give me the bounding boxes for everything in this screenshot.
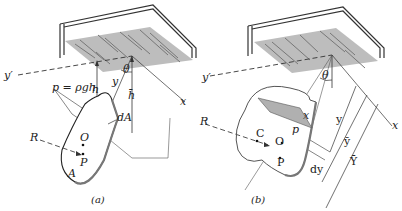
label-y-prime-b: y′ xyxy=(202,72,211,83)
label-y-b: y xyxy=(336,114,342,125)
label-C: C xyxy=(256,128,264,139)
label-R-a: R xyxy=(30,132,38,143)
label-R-b: R xyxy=(200,116,208,127)
label-dA: dA xyxy=(117,112,132,123)
label-h-bar: h̄ xyxy=(128,90,135,101)
hydrostatic-pressure-figure: y′ h y h̄ θ x p = ρgh dA O P R A (a) y′ … xyxy=(0,0,402,211)
panel-a-drawing xyxy=(18,5,196,184)
label-x-a: x xyxy=(180,96,186,107)
label-x-b: x xyxy=(392,120,398,131)
label-x-small: x xyxy=(303,110,309,121)
label-P-b: P xyxy=(277,157,284,168)
label-pressure: p = ρgh xyxy=(52,82,96,93)
label-O-b: O xyxy=(275,136,284,147)
label-y-a: y xyxy=(112,76,118,87)
panel-b-drawing xyxy=(205,7,392,208)
label-Y-bar: Ȳ xyxy=(350,156,357,167)
label-A: A xyxy=(68,168,76,179)
figure-drawing xyxy=(0,0,402,211)
label-P-a: P xyxy=(80,157,87,168)
caption-a: (a) xyxy=(91,194,105,205)
label-O-a: O xyxy=(80,132,89,143)
label-y-bar: ȳ xyxy=(344,136,350,147)
caption-b: (b) xyxy=(251,194,265,205)
label-y-prime-a: y′ xyxy=(4,70,13,81)
label-p: p xyxy=(292,124,299,135)
label-theta-b: θ xyxy=(322,70,329,81)
label-theta-a: θ xyxy=(123,64,130,75)
label-dy: dy xyxy=(310,164,323,175)
